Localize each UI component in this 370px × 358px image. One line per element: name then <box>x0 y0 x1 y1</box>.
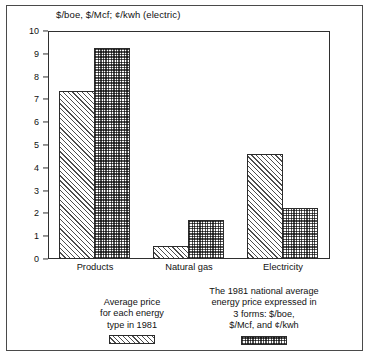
legend-item-national-average: The 1981 national average energy price e… <box>200 286 328 345</box>
bar <box>188 220 224 259</box>
bar <box>153 246 189 259</box>
bar-group <box>59 31 131 259</box>
checker-swatch <box>241 336 287 345</box>
x-axis-label: Products <box>77 262 114 272</box>
y-tick-label: 7 <box>34 94 39 104</box>
y-tick-label: 8 <box>34 72 39 82</box>
y-tick-label: 1 <box>34 231 39 241</box>
bar-group <box>247 31 319 259</box>
bar <box>282 208 318 259</box>
y-tick-label: 9 <box>34 49 39 59</box>
chart-figure: $/boe, $/Mcf; ¢/kwh (electric) 012345678… <box>0 0 370 358</box>
y-tick-label: 5 <box>34 140 39 150</box>
chart-legend: Average price for each energy type in 19… <box>48 286 348 348</box>
bar <box>94 48 130 259</box>
y-tick-label: 4 <box>34 163 39 173</box>
y-tick-label: 6 <box>34 117 39 127</box>
hatch-swatch <box>109 335 155 344</box>
y-tick-label: 0 <box>34 254 39 264</box>
x-axis-labels: ProductsNatural gasElectricity <box>48 262 330 278</box>
legend-label-national-average: The 1981 national average energy price e… <box>200 286 328 332</box>
bar-group <box>153 31 225 259</box>
chart-title: $/boe, $/Mcf; ¢/kwh (electric) <box>56 9 180 20</box>
bar <box>59 91 95 259</box>
y-tick-label: 3 <box>34 186 39 196</box>
bar <box>247 154 283 259</box>
y-tick-label: 10 <box>29 26 39 36</box>
x-axis-label: Natural gas <box>165 262 213 272</box>
bar-series-container <box>48 31 330 259</box>
legend-label-average-price: Average price for each energy type in 19… <box>80 297 184 331</box>
x-axis-label: Electricity <box>263 262 303 272</box>
legend-item-average-price: Average price for each energy type in 19… <box>80 297 184 344</box>
y-axis: 012345678910 <box>0 31 48 260</box>
y-tick-label: 2 <box>34 208 39 218</box>
